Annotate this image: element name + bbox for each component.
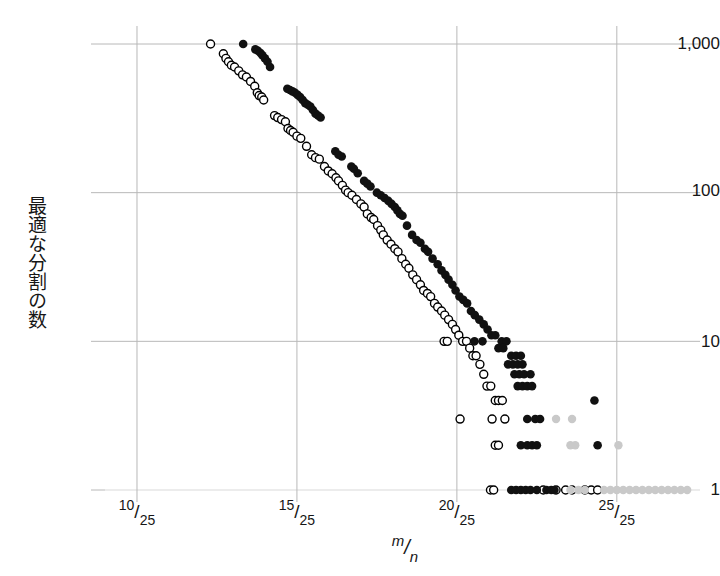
data-point-faint-gray-points [568,415,576,423]
data-point-filled-circles [337,152,346,161]
x-tick-label-10-25: 10/25 [119,498,155,525]
data-point-filled-circles [550,486,559,495]
y-tick-label-10: 10 [630,332,720,352]
data-point-faint-gray-points [571,441,579,449]
y-tick-label-1000: 1,000 [630,34,720,54]
x-tick-3-denominator: 25 [619,512,635,528]
data-point-faint-gray-points [552,415,560,423]
data-point-faint-gray-points [566,486,574,494]
gridlines-group [91,26,700,502]
x-axis-title-numerator: m [392,532,405,549]
data-point-open-circles [456,415,464,423]
data-point-open-circles [443,337,451,345]
data-point-filled-circles [499,344,508,353]
x-tick-label-25-25: 25/25 [599,498,635,525]
x-tick-2-denominator: 25 [460,512,476,528]
data-point-open-circles [476,360,484,368]
data-point-open-circles [498,396,506,404]
data-point-filled-circles [353,169,362,178]
data-point-open-circles [480,370,488,378]
data-point-filled-circles [518,360,527,369]
data-point-open-circles [501,415,509,423]
scatter-chart-figure: 最適な分割の数 1,000 100 10 1 10/25 15/25 20/25… [0,0,720,576]
data-point-open-circles [487,382,495,390]
data-point-open-circles [488,415,496,423]
data-point-filled-circles [526,370,535,379]
data-point-filled-circles [470,337,479,346]
data-point-open-circles [303,142,311,150]
x-axis-title-denominator: n [410,548,418,565]
data-point-open-circles [207,40,215,48]
data-point-filled-circles [366,182,375,191]
data-point-filled-circles [517,351,526,360]
data-point-filled-circles [523,415,532,424]
data-point-open-circles [490,486,498,494]
data-point-open-circles [466,344,474,352]
x-tick-1-numerator: 15 [279,497,295,513]
x-axis-title: m/n [392,533,418,562]
x-tick-2-numerator: 20 [439,497,455,513]
y-tick-label-100: 100 [630,181,720,201]
data-point-filled-circles [463,299,472,308]
data-point-filled-circles [533,441,542,450]
data-point-filled-circles [491,331,500,340]
data-point-filled-circles [239,40,248,49]
data-point-open-circles [472,352,480,360]
x-tick-label-20-25: 20/25 [439,498,475,525]
data-point-filled-circles [528,382,537,391]
x-tick-0-numerator: 10 [119,497,135,513]
data-point-filled-circles [266,63,275,72]
data-point-filled-circles [316,113,325,122]
data-point-open-circles [315,155,323,163]
data-point-filled-circles [593,441,602,450]
data-point-filled-circles [536,415,545,424]
data-point-faint-gray-points [614,441,622,449]
data-point-filled-circles [478,337,487,346]
x-tick-label-15-25: 15/25 [279,498,315,525]
data-point-open-circles [260,96,268,104]
x-tick-0-denominator: 25 [140,512,156,528]
data-point-open-circles [494,441,502,449]
data-point-open-circles [297,134,305,142]
x-tick-1-denominator: 25 [300,512,316,528]
y-axis-label: 最適な分割の数 [14,196,48,329]
data-point-filled-circles [533,486,542,495]
data-point-filled-circles [590,396,599,405]
data-point-filled-circles [403,221,412,230]
data-markers-group [207,40,692,495]
plot-canvas [0,0,720,576]
data-point-faint-gray-points [581,486,589,494]
y-tick-label-1: 1 [630,480,720,500]
x-tick-3-numerator: 25 [599,497,615,513]
data-point-filled-circles [398,211,407,220]
